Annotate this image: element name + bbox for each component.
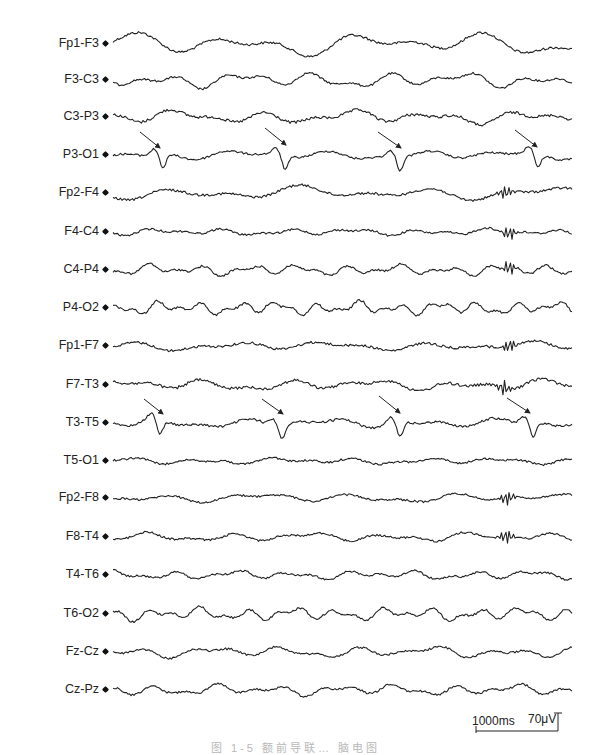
channel-name: C4-P4: [64, 262, 99, 276]
eeg-trace-fp2-f8: [113, 493, 572, 506]
spike-arrow-icon: [507, 398, 530, 413]
spike-arrow-icon: [378, 132, 401, 148]
eeg-trace-t3-t5: [113, 413, 572, 438]
channel-name: F7-T3: [66, 377, 99, 391]
channel-marker-icon: [102, 113, 109, 120]
eeg-trace-cz-pz: [113, 683, 572, 697]
channel-name: F3-C3: [64, 72, 99, 86]
spike-arrow-icon: [144, 399, 163, 414]
channel-marker-icon: [102, 533, 109, 540]
spike-arrow-icon: [140, 132, 160, 148]
channel-label: F8-T4: [66, 529, 108, 543]
channel-label: Fp2-F4: [59, 185, 108, 199]
channel-name: Cz-Pz: [65, 682, 99, 696]
figure-caption: 图 1-5 额前导联… 脑电图: [0, 739, 591, 755]
channel-marker-icon: [102, 304, 109, 311]
channel-name: Fp1-F7: [59, 338, 99, 352]
channel-name: P3-O1: [63, 147, 99, 161]
channel-label: Fp1-F3: [59, 36, 108, 50]
eeg-trace-f3-c3: [113, 72, 572, 89]
channel-label: Fp2-F8: [59, 490, 108, 504]
channel-marker-icon: [102, 151, 109, 158]
channel-label: Fz-Cz: [66, 644, 108, 658]
eeg-trace-f7-t3: [113, 378, 572, 395]
channel-marker-icon: [102, 40, 109, 47]
channel-label: F3-C3: [64, 72, 108, 86]
channel-label: T6-O2: [64, 606, 108, 620]
channel-name: Fp2-F4: [59, 185, 99, 199]
eeg-trace-p3-o1: [113, 147, 572, 171]
channel-name: Fp1-F3: [59, 36, 99, 50]
eeg-trace-fp1-f7: [113, 340, 572, 352]
channel-name: Fp2-F8: [59, 490, 99, 504]
eeg-trace-c3-p3: [113, 109, 572, 126]
spike-arrow-icon: [262, 399, 283, 414]
channel-marker-icon: [102, 228, 109, 235]
channel-marker-icon: [102, 686, 109, 693]
channel-marker-icon: [102, 610, 109, 617]
spike-arrow-icon: [265, 128, 286, 145]
channel-marker-icon: [102, 189, 109, 196]
channel-marker-icon: [102, 266, 109, 273]
channel-label: F7-T3: [66, 377, 108, 391]
eeg-trace-fp1-f3: [113, 32, 572, 57]
eeg-trace-c4-p4: [113, 262, 572, 277]
channel-label: T4-T6: [66, 567, 108, 581]
scale-time-label: 1000ms: [472, 714, 515, 728]
channel-label: P4-O2: [63, 300, 108, 314]
channel-name: T4-T6: [66, 567, 99, 581]
channel-marker-icon: [102, 494, 109, 501]
eeg-trace-t4-t6: [113, 570, 572, 581]
eeg-trace-fp2-f4: [113, 184, 572, 201]
channel-marker-icon: [102, 419, 109, 426]
channel-label: P3-O1: [63, 147, 108, 161]
channel-name: T5-O1: [64, 453, 99, 467]
eeg-trace-p4-o2: [113, 299, 572, 316]
channel-name: F4-C4: [64, 224, 99, 238]
eeg-trace-fz-cz: [113, 646, 572, 659]
channel-label: C4-P4: [64, 262, 108, 276]
eeg-trace-t5-o1: [113, 457, 572, 465]
channel-marker-icon: [102, 571, 109, 578]
channel-marker-icon: [102, 457, 109, 464]
channel-label: T3-T5: [66, 415, 108, 429]
channel-label: Fp1-F7: [59, 338, 108, 352]
eeg-trace-t6-o2: [113, 606, 572, 623]
scale-amplitude-label: 70μV: [528, 712, 556, 726]
spike-arrow-icon: [379, 396, 400, 413]
channel-name: C3-P3: [64, 109, 99, 123]
spike-arrow-icon: [515, 130, 537, 147]
channel-name: T6-O2: [64, 606, 99, 620]
channel-label: T5-O1: [64, 453, 108, 467]
channel-marker-icon: [102, 381, 109, 388]
channel-name: T3-T5: [66, 415, 99, 429]
channel-name: Fz-Cz: [66, 644, 99, 658]
channel-marker-icon: [102, 648, 109, 655]
channel-marker-icon: [102, 76, 109, 83]
channel-marker-icon: [102, 342, 109, 349]
channel-name: P4-O2: [63, 300, 99, 314]
channel-label: F4-C4: [64, 224, 108, 238]
channel-label: C3-P3: [64, 109, 108, 123]
channel-label: Cz-Pz: [65, 682, 108, 696]
eeg-trace-f4-c4: [113, 227, 572, 239]
eeg-trace-f8-t4: [113, 531, 572, 543]
channel-name: F8-T4: [66, 529, 99, 543]
